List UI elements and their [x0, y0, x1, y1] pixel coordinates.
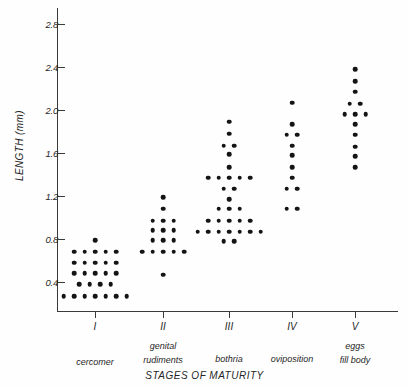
- data-point: [295, 133, 300, 138]
- data-point: [171, 238, 176, 243]
- data-point: [161, 228, 166, 233]
- data-point: [290, 176, 295, 181]
- data-point: [103, 250, 108, 255]
- data-point: [227, 131, 232, 136]
- data-point: [93, 238, 98, 243]
- data-point: [140, 250, 145, 255]
- data-point: [358, 101, 363, 106]
- data-point: [290, 143, 295, 148]
- data-point: [114, 260, 119, 265]
- data-point: [82, 260, 87, 265]
- data-point: [353, 154, 358, 159]
- data-point: [216, 176, 221, 181]
- data-point: [248, 176, 253, 181]
- data-point: [227, 197, 232, 202]
- data-point: [216, 218, 221, 223]
- data-point: [227, 152, 232, 157]
- data-point: [103, 271, 108, 276]
- data-point: [227, 120, 232, 125]
- data-point: [88, 282, 93, 287]
- data-point: [222, 239, 227, 244]
- data-point: [227, 207, 232, 212]
- data-point: [295, 186, 300, 191]
- data-point: [182, 250, 187, 255]
- data-point: [227, 229, 232, 234]
- data-point: [222, 186, 227, 191]
- data-point: [353, 165, 358, 170]
- data-point: [103, 294, 108, 299]
- data-point: [227, 176, 232, 181]
- data-point: [150, 228, 155, 233]
- data-point: [237, 218, 242, 223]
- data-point: [353, 133, 358, 138]
- data-point: [103, 260, 108, 265]
- data-point: [124, 294, 129, 299]
- data-point: [232, 143, 237, 148]
- data-point: [216, 229, 221, 234]
- data-point: [232, 239, 237, 244]
- data-point: [93, 260, 98, 265]
- data-point: [195, 229, 200, 234]
- dot-plot-figure: 0.40.81.21.62.02.42.8 LENGTH (mm) Icerco…: [0, 0, 409, 386]
- data-point: [363, 112, 368, 117]
- data-point: [98, 282, 103, 287]
- data-point: [161, 238, 166, 243]
- plot-area: [0, 0, 409, 386]
- data-point: [72, 271, 77, 276]
- data-point: [248, 229, 253, 234]
- data-point: [77, 282, 82, 287]
- data-point: [237, 229, 242, 234]
- data-point: [232, 186, 237, 191]
- data-point: [114, 271, 119, 276]
- data-point: [93, 271, 98, 276]
- data-point: [171, 250, 176, 255]
- x-axis-title: STAGES OF MATURITY: [0, 370, 409, 381]
- data-point: [161, 272, 166, 277]
- data-point: [171, 218, 176, 223]
- data-point: [150, 250, 155, 255]
- data-point: [72, 260, 77, 265]
- data-point: [206, 218, 211, 223]
- data-point: [206, 176, 211, 181]
- data-point: [171, 228, 176, 233]
- data-point: [353, 112, 358, 117]
- data-point: [353, 90, 358, 95]
- data-point: [237, 207, 242, 212]
- data-point: [109, 282, 114, 287]
- data-point: [161, 218, 166, 223]
- data-point: [353, 144, 358, 149]
- data-point: [258, 229, 263, 234]
- data-point: [353, 67, 358, 72]
- data-point: [290, 122, 295, 127]
- data-point: [82, 294, 87, 299]
- data-point: [114, 250, 119, 255]
- data-point: [93, 250, 98, 255]
- data-point: [227, 165, 232, 170]
- data-point: [93, 294, 98, 299]
- data-point: [150, 218, 155, 223]
- data-point: [285, 186, 290, 191]
- data-point: [285, 133, 290, 138]
- data-point: [237, 176, 242, 181]
- data-point: [290, 100, 295, 105]
- data-point: [114, 294, 119, 299]
- data-point: [216, 207, 221, 212]
- data-point: [348, 101, 353, 106]
- data-point: [285, 207, 290, 212]
- data-point: [290, 153, 295, 158]
- data-point: [295, 207, 300, 212]
- data-point: [353, 79, 358, 84]
- data-point: [72, 250, 77, 255]
- data-point: [248, 218, 253, 223]
- data-point: [82, 271, 87, 276]
- data-point: [222, 143, 227, 148]
- data-point: [161, 195, 166, 200]
- data-point: [342, 112, 347, 117]
- data-point: [61, 294, 66, 299]
- data-point: [353, 122, 358, 127]
- data-point: [206, 229, 211, 234]
- data-point: [82, 250, 87, 255]
- data-point: [161, 250, 166, 255]
- data-point: [290, 165, 295, 170]
- data-point: [227, 218, 232, 223]
